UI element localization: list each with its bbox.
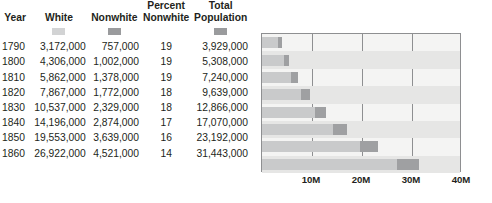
column-header-year: Year [0,0,30,24]
chart-bar-segment-nonwhite-1820 [301,89,310,100]
chart-bar-stack-1830 [262,107,326,118]
table-cell-white: 3,172,000 [30,39,87,54]
chart-bar-segment-nonwhite-1850 [360,141,378,152]
chart-bar-segment-white-1800 [262,55,284,66]
chart-bar-segment-nonwhite-1810 [291,72,298,83]
table-cell-year: 1820 [0,85,30,100]
table-cell-total-population: 7,240,000 [191,70,250,85]
chart-plot-area [261,33,461,172]
table-cell-year: 1850 [0,130,30,145]
chart-bars [262,34,460,171]
chart-bar-segment-nonwhite-1800 [284,55,289,66]
chart-bar-segment-white-1820 [262,89,301,100]
chart-bar-row-1830 [262,104,460,121]
table-cell-year: 1860 [0,146,30,161]
chart-bar-stack-1800 [262,55,289,66]
chart-bar-segment-white-1860 [262,159,397,170]
chart-bar-stack-1790 [262,37,282,48]
table-cell-nonwhite: 1,002,000 [88,54,141,69]
chart-bar-segment-white-1830 [262,107,315,118]
table-cell-white: 14,196,000 [30,115,87,130]
table-cell-nonwhite: 1,378,000 [88,70,141,85]
table-row: 185019,553,0003,639,0001623,192,000 [0,130,250,145]
table-cell-total-population: 3,929,000 [191,39,250,54]
table-row: 183010,537,0002,329,0001812,866,000 [0,100,250,115]
table-cell-nonwhite: 4,521,000 [88,146,141,161]
chart-bar-stack-1820 [262,89,310,100]
legend-swatch-nonwhite [108,28,121,35]
table-cell-nonwhite: 757,000 [88,39,141,54]
column-header-percent-nonwhite-line1: Percent [147,0,185,11]
table-cell-year: 1830 [0,100,30,115]
chart-x-axis: 10M20M30M40M [261,174,461,188]
legend-swatch-cell-total [191,24,250,39]
chart-bar-stack-1840 [262,124,347,135]
table-cell-year: 1800 [0,54,30,69]
table-cell-percent-nonwhite: 19 [141,39,191,54]
chart-bar-row-1790 [262,34,460,51]
table-cell-percent-nonwhite: 19 [141,54,191,69]
x-axis-tick-label-30M: 30M [402,174,421,185]
chart-bar-row-1800 [262,51,460,68]
legend-swatch-spacer-year [0,24,30,39]
figure-root: Year White Nonwhite Percent Nonwhite Tot… [0,0,492,203]
table-cell-total-population: 9,639,000 [191,85,250,100]
table-row: 18004,306,0001,002,000195,308,000 [0,54,250,69]
chart-bar-stack-1860 [262,159,419,170]
column-header-percent-nonwhite: Percent Nonwhite [141,0,191,24]
legend-swatch-row [0,24,250,39]
table-body: 17903,172,000757,000193,929,00018004,306… [0,39,250,161]
table-cell-percent-nonwhite: 16 [141,130,191,145]
table-cell-nonwhite: 2,874,000 [88,115,141,130]
chart-bar-stack-1850 [262,141,378,152]
legend-swatch-spacer-percent [141,24,191,39]
chart-bar-row-1840 [262,121,460,138]
table-cell-total-population: 5,308,000 [191,54,250,69]
chart-bar-segment-white-1790 [262,37,278,48]
chart-bar-segment-white-1840 [262,124,333,135]
chart-bar-row-1850 [262,138,460,155]
chart-bar-row-1860 [262,156,460,173]
chart-bar-segment-white-1850 [262,141,360,152]
table-row: 186026,922,0004,521,0001431,443,000 [0,146,250,161]
chart-bar-row-1820 [262,86,460,103]
table-cell-nonwhite: 3,639,000 [88,130,141,145]
x-axis-tick-label-10M: 10M [302,174,321,185]
legend-swatch-cell-nonwhite [88,24,141,39]
table-cell-total-population: 31,443,000 [191,146,250,161]
column-header-percent-nonwhite-line2: Nonwhite [143,12,189,23]
table-header-row: Year White Nonwhite Percent Nonwhite Tot… [0,0,250,24]
table-cell-percent-nonwhite: 17 [141,115,191,130]
table-cell-white: 5,862,000 [30,70,87,85]
legend-swatch-white [52,28,65,35]
table-cell-white: 19,553,000 [30,130,87,145]
table-cell-percent-nonwhite: 18 [141,85,191,100]
table-head: Year White Nonwhite Percent Nonwhite Tot… [0,0,250,39]
x-axis-tick-label-40M: 40M [452,174,471,185]
column-header-total-population: Total Population [191,0,250,24]
table-cell-nonwhite: 2,329,000 [88,100,141,115]
table-cell-total-population: 17,070,000 [191,115,250,130]
table-cell-percent-nonwhite: 14 [141,146,191,161]
table-cell-nonwhite: 1,772,000 [88,85,141,100]
table-cell-white: 4,306,000 [30,54,87,69]
table-cell-white: 26,922,000 [30,146,87,161]
column-header-total-population-line2: Population [194,12,247,23]
chart-bar-segment-nonwhite-1790 [278,37,282,48]
table-cell-total-population: 12,866,000 [191,100,250,115]
table-cell-total-population: 23,192,000 [191,130,250,145]
column-header-nonwhite: Nonwhite [88,0,141,24]
table-row: 17903,172,000757,000193,929,000 [0,39,250,54]
legend-swatch-total-population [214,28,227,35]
x-axis-tick-label-20M: 20M [352,174,371,185]
chart-bar-segment-white-1810 [262,72,291,83]
table-cell-year: 1840 [0,115,30,130]
table-cell-white: 10,537,000 [30,100,87,115]
table-cell-percent-nonwhite: 19 [141,70,191,85]
column-header-white: White [30,0,87,24]
table-cell-year: 1810 [0,70,30,85]
table-row: 18207,867,0001,772,000189,639,000 [0,85,250,100]
table-row: 184014,196,0002,874,0001717,070,000 [0,115,250,130]
column-header-total-population-line1: Total [209,0,233,11]
population-table: Year White Nonwhite Percent Nonwhite Tot… [0,0,250,161]
